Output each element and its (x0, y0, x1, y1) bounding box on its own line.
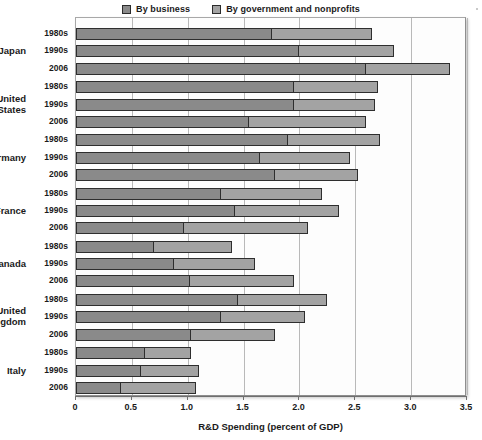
y-label-country: France (0, 205, 26, 216)
y-label-period: 1990s (28, 151, 68, 163)
legend-label: By government and nonprofits (226, 4, 360, 14)
y-label-period: 1980s (28, 240, 68, 252)
y-label-period: 1990s (28, 257, 68, 269)
bar-segment-business (76, 258, 174, 270)
y-label-period: 2006 (28, 328, 68, 340)
bar-segment-government (287, 134, 380, 146)
y-label-country: Germany (0, 152, 26, 163)
bar-segment-business (76, 311, 221, 323)
y-label-period: 2006 (28, 168, 68, 180)
bar-segment-government (237, 294, 327, 306)
x-axis-tick-label: 3.5 (446, 402, 482, 412)
x-axis-tick-label: 3.0 (390, 402, 430, 412)
x-axis-tick (298, 396, 299, 400)
bar-segment-business (76, 188, 221, 200)
bar-segment-business (76, 347, 145, 359)
x-axis-tick (410, 396, 411, 400)
y-label-country: Canada (0, 258, 26, 269)
y-label-country: Japan (0, 45, 26, 56)
chart-legend: By businessBy government and nonprofits (0, 2, 482, 16)
y-label-period: 1980s (28, 293, 68, 305)
bar-segment-government (248, 116, 366, 128)
x-axis-tick-label: 1.5 (223, 402, 263, 412)
bar-segment-business (76, 382, 121, 394)
gridline (467, 18, 468, 395)
bar-segment-business (76, 63, 366, 75)
bar-segment-business (76, 99, 294, 111)
bar-segment-government (153, 241, 232, 253)
legend-swatch-government-icon (212, 5, 221, 14)
bar-segment-government (274, 169, 358, 181)
bar-segment-government (120, 382, 196, 394)
bar-segment-business (76, 134, 288, 146)
x-axis-tick-label: 0.5 (111, 402, 151, 412)
bar-segment-business (76, 152, 260, 164)
bar-segment-business (76, 365, 141, 377)
bar-segment-business (76, 222, 184, 234)
x-axis-tick (354, 396, 355, 400)
bar-segment-government (220, 311, 305, 323)
bar-segment-government (183, 222, 308, 234)
bar-segment-business (76, 205, 235, 217)
scan-speck (476, 8, 478, 10)
x-axis-tick-label: 0 (55, 402, 95, 412)
x-axis: 00.51.01.52.02.53.03.5 (75, 396, 466, 397)
bar-segment-government (190, 329, 275, 341)
bar-segment-government (220, 188, 322, 200)
x-axis-title: R&D Spending (percent of GDP) (75, 421, 466, 432)
bar-segment-business (76, 81, 294, 93)
bar-segment-government (293, 81, 378, 93)
bar-segment-business (76, 275, 190, 287)
bar-segment-government (271, 28, 373, 40)
bar-segment-government (140, 365, 199, 377)
bar-segment-government (189, 275, 294, 287)
x-axis-tick (243, 396, 244, 400)
x-axis-tick-label: 2.5 (334, 402, 374, 412)
y-label-period: 2006 (28, 115, 68, 127)
y-label-period: 1990s (28, 364, 68, 376)
legend-swatch-business-icon (122, 5, 131, 14)
bar-segment-government (293, 99, 376, 111)
y-label-period: 2006 (28, 381, 68, 393)
plot-inner (76, 18, 465, 395)
x-axis-tick-label: 1.0 (167, 402, 207, 412)
bar-segment-business (76, 116, 249, 128)
x-axis-tick (466, 396, 467, 400)
y-axis-labels: 1980s1990s2006Japan1980s1990s2006United … (0, 17, 72, 396)
y-label-country: United Kingdom (0, 305, 26, 327)
plot-area (75, 17, 466, 396)
y-label-period: 1990s (28, 204, 68, 216)
y-label-country: United States (0, 93, 26, 115)
y-label-period: 1990s (28, 98, 68, 110)
y-label-period: 2006 (28, 62, 68, 74)
bar-segment-business (76, 329, 191, 341)
x-axis-tick (75, 396, 76, 400)
bar-segment-business (76, 28, 272, 40)
bar-segment-government (173, 258, 254, 270)
x-axis-tick (131, 396, 132, 400)
legend-item-government: By government and nonprofits (212, 4, 360, 14)
bar-segment-government (234, 205, 339, 217)
y-label-period: 1980s (28, 133, 68, 145)
y-label-period: 1980s (28, 346, 68, 358)
bar-segment-government (259, 152, 349, 164)
bar-segment-government (144, 347, 191, 359)
y-label-period: 2006 (28, 221, 68, 233)
y-label-period: 2006 (28, 274, 68, 286)
y-label-period: 1980s (28, 80, 68, 92)
legend-label: By business (136, 4, 190, 14)
bar-segment-business (76, 45, 299, 57)
bar-segment-government (298, 45, 394, 57)
y-label-country: Italy (0, 365, 26, 376)
y-label-period: 1990s (28, 310, 68, 322)
y-label-period: 1980s (28, 27, 68, 39)
bar-segment-business (76, 169, 275, 181)
x-axis-tick-label: 2.0 (278, 402, 318, 412)
legend-item-business: By business (122, 4, 190, 14)
bar-segment-business (76, 241, 154, 253)
rd-spending-chart: By businessBy government and nonprofits … (0, 0, 482, 440)
bar-segment-government (365, 63, 450, 75)
y-label-period: 1980s (28, 187, 68, 199)
bar-segment-business (76, 294, 238, 306)
x-axis-tick (187, 396, 188, 400)
